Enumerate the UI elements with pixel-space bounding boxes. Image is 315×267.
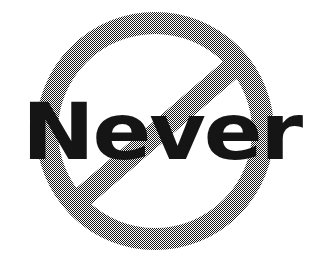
never-label: Never — [22, 87, 304, 177]
never-prohibition-graphic: Never — [0, 0, 315, 267]
image-canvas: Never — [0, 0, 315, 267]
never-word: Never — [22, 87, 304, 177]
